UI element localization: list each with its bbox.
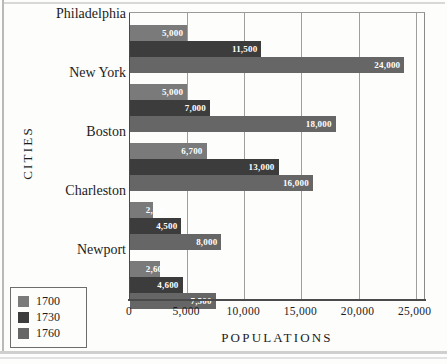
x-tick-label-5000: 5,000 xyxy=(172,305,199,317)
bar-row: 4,500 xyxy=(130,218,424,234)
bar-value-label: 2,600 xyxy=(131,261,167,277)
bar-row: 5,000 xyxy=(130,84,424,100)
legend-item-1760: 1760 xyxy=(18,326,80,341)
legend-swatch-1730 xyxy=(18,312,29,323)
legend-item-1700: 1700 xyxy=(18,294,80,309)
legend-swatch-1760 xyxy=(18,328,29,339)
bar-value-label: 18,000 xyxy=(296,116,332,132)
bar-row: 4,600 xyxy=(130,277,424,293)
bar-value-label: 4,600 xyxy=(143,277,179,293)
legend-swatch-1700 xyxy=(18,296,29,307)
bar-row: 13,000 xyxy=(130,159,424,175)
bar-group-newport: 2,6004,6007,500 xyxy=(130,261,424,309)
legend-label-1730: 1730 xyxy=(36,310,60,325)
y-axis-label-new-york: New York xyxy=(0,65,126,81)
bar-row: 6,700 xyxy=(130,143,424,159)
bar-value-label: 13,000 xyxy=(239,159,275,175)
legend-label-1760: 1760 xyxy=(36,326,60,341)
bar-row: 8,000 xyxy=(130,234,424,250)
bar-value-label: 11,500 xyxy=(221,41,257,57)
bar-row: 2,600 xyxy=(130,261,424,277)
plot-top-border xyxy=(129,12,425,13)
x-tick-label-10000: 10,000 xyxy=(227,305,260,317)
bar-row: 24,000 xyxy=(130,57,424,73)
legend: 170017301760 xyxy=(10,287,87,348)
bar-row: 11,500 xyxy=(130,41,424,57)
bar-value-label: 5,000 xyxy=(147,84,183,100)
bar-value-label: 7,000 xyxy=(170,100,206,116)
y-axis-label-charleston: Charleston xyxy=(0,183,126,199)
bar-row: 7,000 xyxy=(130,100,424,116)
bar-value-label: 2,000 xyxy=(131,202,167,218)
x-tick-label-0: 0 xyxy=(126,305,132,317)
plot-area: 5,00011,50024,0005,0007,00018,0006,70013… xyxy=(129,12,425,300)
bar-row: 16,000 xyxy=(130,175,424,191)
y-axis-title: CITIES xyxy=(20,103,36,203)
legend-item-1730: 1730 xyxy=(18,310,80,325)
y-axis-label-boston: Boston xyxy=(0,124,126,140)
bar-philadelphia-1760 xyxy=(130,57,404,73)
bar-row: 5,000 xyxy=(130,25,424,41)
bar-row: 18,000 xyxy=(130,116,424,132)
x-tick-label-25000: 25,000 xyxy=(398,305,431,317)
bar-value-label: 24,000 xyxy=(364,57,400,73)
x-tick-label-15000: 15,000 xyxy=(284,305,317,317)
bar-row: 2,000 xyxy=(130,202,424,218)
legend-label-1700: 1700 xyxy=(36,294,60,309)
bar-value-label: 16,000 xyxy=(273,175,309,191)
chart-figure: PhiladelphiaNew YorkBostonCharlestonNewp… xyxy=(0,0,447,364)
bar-group-philadelphia: 5,00011,50024,000 xyxy=(130,25,424,73)
y-axis-label-newport: Newport xyxy=(0,242,126,258)
bar-value-label: 8,000 xyxy=(181,234,217,250)
x-axis-line xyxy=(128,299,426,301)
bar-group-charleston: 2,0004,5008,000 xyxy=(130,202,424,250)
x-tick-label-20000: 20,000 xyxy=(341,305,374,317)
bar-group-new-york: 5,0007,00018,000 xyxy=(130,84,424,132)
bar-value-label: 5,000 xyxy=(147,25,183,41)
bar-value-label: 6,700 xyxy=(167,143,203,159)
bar-group-boston: 6,70013,00016,000 xyxy=(130,143,424,191)
y-axis-label-philadelphia: Philadelphia xyxy=(0,6,126,22)
x-axis-title: POPULATIONS xyxy=(129,330,425,346)
bar-value-label: 4,500 xyxy=(141,218,177,234)
